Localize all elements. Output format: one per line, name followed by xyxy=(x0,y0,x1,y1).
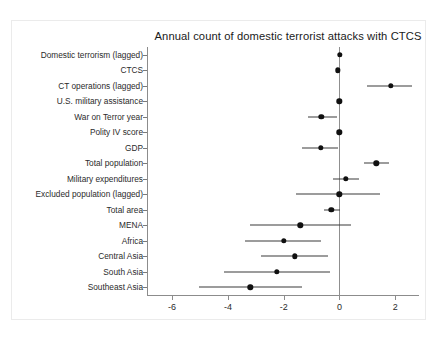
estimate-point-marker xyxy=(337,130,342,135)
estimate-point-marker xyxy=(248,285,253,290)
estimate-point-marker xyxy=(298,223,303,228)
x-axis-tick xyxy=(339,296,340,300)
y-axis-tick-label: Southeast Asia xyxy=(88,283,143,291)
x-axis-tick xyxy=(284,296,285,300)
y-axis-tick-label: MENA xyxy=(119,221,143,229)
y-axis-label-group: Domestic terrorism (lagged)CTCSCT operat… xyxy=(12,47,143,295)
y-axis-tick-label: War on Terror year xyxy=(74,113,143,121)
estimate-point-marker xyxy=(343,176,348,181)
y-axis-tick-label: Polity IV score xyxy=(90,128,143,136)
y-axis-tick-label: GDP xyxy=(125,144,143,152)
estimate-point-marker xyxy=(319,114,324,119)
x-axis-tick-label: -2 xyxy=(280,302,288,312)
figure-canvas: Annual count of domestic terrorist attac… xyxy=(0,0,439,338)
y-axis-tick-label: South Asia xyxy=(103,268,143,276)
page-title: Annual count of domestic terrorist attac… xyxy=(147,30,429,42)
y-axis-tick-label: Total area xyxy=(107,206,143,214)
estimate-point-marker xyxy=(337,192,342,197)
y-axis-tick-label: U.S. military assistance xyxy=(57,97,143,105)
x-axis-tick xyxy=(228,296,229,300)
y-axis-tick-label: Central Asia xyxy=(98,252,143,260)
y-axis-tick-label: Excluded population (lagged) xyxy=(36,190,143,198)
y-axis-tick-label: Domestic terrorism (lagged) xyxy=(41,51,143,59)
plot-area xyxy=(147,47,419,295)
estimate-point-marker xyxy=(292,254,297,259)
estimate-point-marker xyxy=(281,238,286,243)
y-axis-tick-label: Military expenditures xyxy=(67,175,143,183)
estimate-point-marker xyxy=(328,207,333,212)
x-axis-tick-label: 0 xyxy=(337,302,342,312)
y-axis-tick-label: Total population xyxy=(85,159,143,167)
x-axis-tick-label: 2 xyxy=(393,302,398,312)
y-axis-tick-label: CT operations (lagged) xyxy=(58,82,143,90)
x-axis-tick-label: -4 xyxy=(224,302,232,312)
estimate-point-marker xyxy=(318,145,323,150)
x-axis-tick-label: -6 xyxy=(168,302,176,312)
estimate-point-marker xyxy=(388,83,393,88)
estimate-point-marker xyxy=(274,269,279,274)
estimate-point-marker xyxy=(337,99,342,104)
x-axis-tick xyxy=(172,296,173,300)
estimate-point-marker xyxy=(374,161,379,166)
estimate-point-marker xyxy=(335,68,340,73)
y-axis-tick-label: Africa xyxy=(122,237,143,245)
y-axis-tick-label: CTCS xyxy=(120,66,143,74)
x-axis-tick xyxy=(395,296,396,300)
estimate-point-marker xyxy=(337,52,342,57)
